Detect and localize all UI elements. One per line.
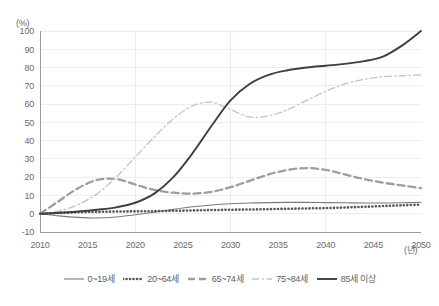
x-tick-label: 2010 bbox=[30, 240, 49, 250]
line-chart: (%) -100102030405060708090100 2010201520… bbox=[0, 0, 439, 306]
y-tick-label: -10 bbox=[22, 227, 35, 237]
x-tick-label: 2030 bbox=[221, 240, 240, 250]
legend-item-label: 85세 이상 bbox=[341, 272, 376, 285]
y-tick-label: 10 bbox=[24, 191, 34, 201]
x-tick-label: 2040 bbox=[316, 240, 335, 250]
y-tick-label: 30 bbox=[24, 154, 34, 164]
legend-item-label: 0~19세 bbox=[88, 272, 115, 285]
y-tick-label: 20 bbox=[24, 172, 34, 182]
legend-item[interactable]: 20~64세 bbox=[123, 272, 178, 285]
chart-legend: 0~19세20~64세65~74세75~84세85세 이상 bbox=[0, 272, 439, 285]
y-tick-label: 90 bbox=[24, 45, 34, 55]
y-tick-label: 100 bbox=[20, 26, 35, 36]
y-axis-tick-labels: -100102030405060708090100 bbox=[20, 26, 35, 237]
dashed-swatch bbox=[188, 274, 208, 284]
plot-area: -100102030405060708090100 20102015202020… bbox=[0, 0, 439, 306]
solid-thick-swatch bbox=[317, 274, 337, 284]
x-tick-label: 2025 bbox=[173, 240, 192, 250]
dotted-swatch bbox=[123, 274, 143, 284]
x-tick-label: 2045 bbox=[364, 240, 383, 250]
x-tick-label: 2035 bbox=[269, 240, 288, 250]
y-tick-label: 80 bbox=[24, 63, 34, 73]
legend-item[interactable]: 75~84세 bbox=[252, 272, 307, 285]
legend-item-label: 65~74세 bbox=[212, 272, 243, 285]
legend-item[interactable]: 65~74세 bbox=[188, 272, 243, 285]
legend-item[interactable]: 85세 이상 bbox=[317, 272, 376, 285]
legend-item-label: 75~84세 bbox=[276, 272, 307, 285]
x-axis-tick-labels: 201020152020202520302035204020452050 bbox=[30, 240, 430, 250]
y-tick-label: 60 bbox=[24, 99, 34, 109]
legend-item[interactable]: 0~19세 bbox=[64, 272, 115, 285]
y-tick-label: 50 bbox=[24, 118, 34, 128]
legend-item-label: 20~64세 bbox=[147, 272, 178, 285]
x-tick-label: 2015 bbox=[78, 240, 97, 250]
dashdot-swatch bbox=[252, 274, 272, 284]
y-tick-label: 40 bbox=[24, 136, 34, 146]
x-tick-label: 2020 bbox=[126, 240, 145, 250]
y-tick-label: 0 bbox=[29, 209, 34, 219]
y-tick-label: 70 bbox=[24, 81, 34, 91]
x-axis-unit-label: (년) bbox=[404, 243, 417, 256]
solid-thin-swatch bbox=[64, 274, 84, 284]
